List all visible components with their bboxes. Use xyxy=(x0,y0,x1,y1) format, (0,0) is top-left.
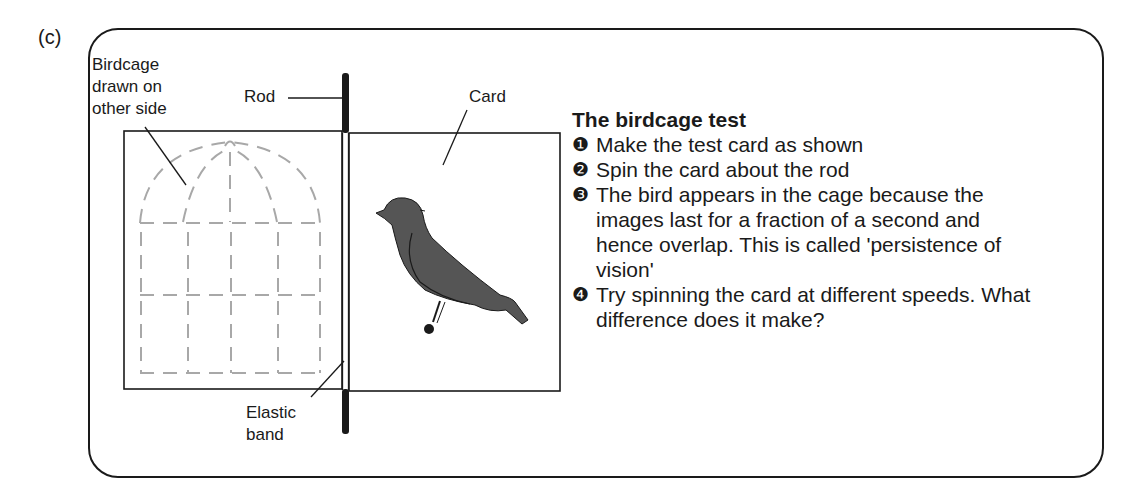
card-label: Card xyxy=(469,86,506,108)
step-number-4-icon: ❹ xyxy=(572,282,596,332)
step-number-2-icon: ❷ xyxy=(572,157,596,182)
birdcage-drawing xyxy=(140,142,320,373)
birdcage-label-line-3: other side xyxy=(92,98,167,120)
step-number-1-icon: ❶ xyxy=(572,132,596,157)
instruction-step-4: ❹ Try spinning the card at different spe… xyxy=(572,282,1042,332)
step-text-1: Make the test card as shown xyxy=(596,132,1092,157)
cage-top-ring xyxy=(225,142,235,147)
instruction-step-2: ❷ Spin the card about the rod xyxy=(572,157,1092,182)
instruction-step-1: ❶ Make the test card as shown xyxy=(572,132,1092,157)
rod xyxy=(342,73,349,434)
elastic-band-label: Elastic band xyxy=(246,402,296,446)
step-text-3: The bird appears in the cage because the… xyxy=(596,182,1042,282)
instruction-step-3: ❸ The bird appears in the cage because t… xyxy=(572,182,1042,282)
step-text-4: Try spinning the card at different speed… xyxy=(596,282,1042,332)
step-number-3-icon: ❸ xyxy=(572,182,596,282)
elastic-band-label-line-2: band xyxy=(246,424,296,446)
rod-label: Rod xyxy=(244,86,275,108)
birdcage-label-line-2: drawn on xyxy=(92,76,167,98)
birdcage-label-line-1: Birdcage xyxy=(92,54,167,76)
instructions-title: The birdcage test xyxy=(572,107,1092,132)
card-leader-line xyxy=(443,110,467,165)
step-text-2: Spin the card about the rod xyxy=(596,157,1092,182)
elastic-band-label-line-1: Elastic xyxy=(246,402,296,424)
instructions-panel: The birdcage test ❶ Make the test card a… xyxy=(572,107,1092,332)
birdcage-label: Birdcage drawn on other side xyxy=(92,54,167,120)
elastic-band-leader-line xyxy=(311,361,344,397)
card-left-panel xyxy=(124,131,342,389)
bird-drawing xyxy=(376,198,528,334)
